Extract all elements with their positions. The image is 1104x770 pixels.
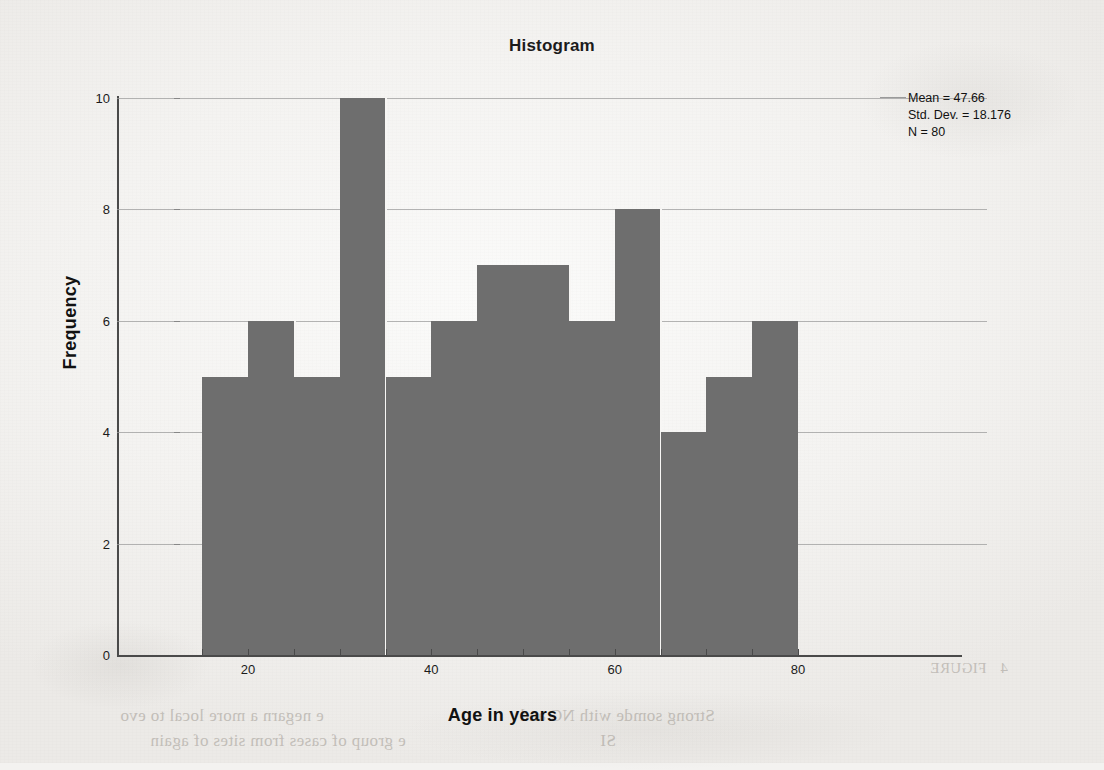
x-tick-label: 40 [401, 662, 461, 677]
histogram-bar [569, 321, 615, 655]
stats-leader-line [880, 97, 906, 98]
x-tick-mark [752, 649, 753, 655]
x-tick-mark [477, 649, 478, 655]
x-tick-label: 60 [585, 662, 645, 677]
histogram-bar [615, 209, 661, 655]
stat-std-dev: Std. Dev. = 18.176 [908, 107, 1011, 124]
x-tick-mark [523, 649, 524, 655]
y-tick-label: 0 [70, 648, 110, 663]
histogram-bar [294, 377, 340, 656]
gridline [117, 98, 987, 99]
x-tick-label: 80 [768, 662, 828, 677]
y-tick-label: 4 [70, 425, 110, 440]
x-tick-mark [431, 649, 432, 655]
x-tick-mark [569, 649, 570, 655]
y-axis-tick-labels: 0246810 [62, 0, 110, 763]
histogram-bar [477, 265, 523, 655]
histogram-bar [202, 377, 248, 656]
x-tick-mark [661, 649, 662, 655]
histogram-bar [386, 377, 432, 656]
x-tick-mark [294, 649, 295, 655]
x-axis-line [117, 655, 962, 657]
y-tick-label: 10 [70, 91, 110, 106]
plot-area [205, 98, 800, 655]
y-tick-label: 2 [70, 536, 110, 551]
x-tick-mark [248, 649, 249, 655]
statistics-annotation: Mean = 47.66 Std. Dev. = 18.176 N = 80 [908, 90, 1011, 141]
stat-n: N = 80 [908, 124, 1011, 141]
histogram-bar [661, 432, 707, 655]
y-tick-label: 8 [70, 202, 110, 217]
x-tick-mark [798, 649, 799, 655]
x-tick-mark [202, 649, 203, 655]
histogram-bar [706, 377, 752, 656]
x-axis-label: Age in years [205, 705, 800, 726]
x-tick-label: 20 [218, 662, 278, 677]
histogram-bar [523, 265, 569, 655]
x-tick-mark [615, 649, 616, 655]
histogram-bar [340, 98, 386, 655]
y-axis-line [117, 96, 119, 657]
histogram-bar [752, 321, 798, 655]
x-tick-mark [706, 649, 707, 655]
x-tick-mark [386, 649, 387, 655]
histogram-bar [248, 321, 294, 655]
stat-mean: Mean = 47.66 [908, 90, 1011, 107]
chart-title: Histogram [0, 36, 1104, 56]
gridline [117, 209, 987, 210]
y-tick-label: 6 [70, 313, 110, 328]
x-tick-mark [340, 649, 341, 655]
histogram-bar [431, 321, 477, 655]
